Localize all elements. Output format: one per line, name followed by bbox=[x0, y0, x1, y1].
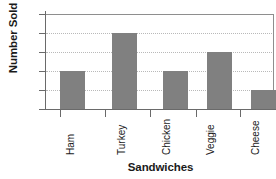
bar-turkey bbox=[112, 33, 137, 109]
x-tick-mark-0 bbox=[60, 110, 61, 117]
x-category-label-cheese: Cheese bbox=[251, 121, 261, 155]
bar-veggie bbox=[207, 52, 232, 109]
x-tick-mark-1 bbox=[105, 110, 106, 117]
x-tick-mark-2 bbox=[150, 110, 151, 117]
gridline-30 bbox=[46, 52, 274, 53]
x-category-label-turkey: Turkey bbox=[117, 125, 127, 155]
gridline-50 bbox=[46, 14, 274, 15]
y-axis-title: Number Sold bbox=[5, 0, 21, 82]
bar-ham bbox=[60, 71, 85, 109]
x-axis-title: Sandwiches bbox=[45, 161, 276, 173]
x-category-label-ham: Ham bbox=[66, 134, 76, 155]
x-tick-mark-4 bbox=[240, 110, 241, 117]
x-category-label-veggie: Veggie bbox=[206, 124, 216, 155]
x-tick-mark-3 bbox=[196, 110, 197, 117]
gridline-40 bbox=[46, 33, 274, 34]
x-category-label-chicken: Chicken bbox=[162, 119, 172, 155]
bar-chart: Number Sold 50 40 30 20 10 0 Ham Turkey … bbox=[0, 0, 276, 179]
plot-area bbox=[46, 14, 274, 109]
bar-chicken bbox=[163, 71, 188, 109]
bar-cheese bbox=[251, 90, 276, 109]
